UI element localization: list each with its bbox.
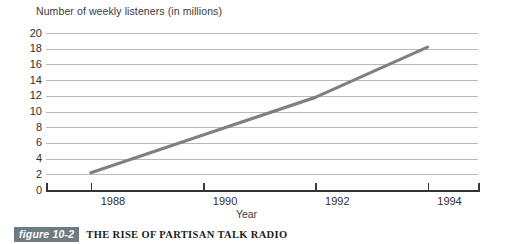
x-axis-tick-label: 1988 [101, 195, 125, 207]
x-axis-end-tick [478, 183, 480, 191]
y-axis-tick-label: 8 [16, 122, 42, 133]
figure-caption: figure 10-2 THE RISE OF PARTISAN TALK RA… [14, 227, 287, 242]
figure-number-badge: figure 10-2 [14, 227, 79, 242]
y-axis-tick-labels: 20181614121086420 [12, 33, 42, 190]
x-axis-title-text: Year [236, 208, 257, 220]
y-axis-tick-label: 20 [16, 28, 42, 39]
y-axis-tick-label: 0 [16, 185, 42, 196]
data-line-chart [46, 33, 478, 190]
x-axis-tick [315, 183, 317, 191]
y-axis-tick-label: 12 [16, 90, 42, 101]
y-axis-tick-label: 16 [16, 59, 42, 70]
figure-caption-title: THE RISE OF PARTISAN TALK RADIO [86, 229, 287, 240]
series-line-weekly-listeners [91, 47, 428, 173]
x-axis-tick-label: 1990 [213, 195, 237, 207]
y-axis-tick-label: 4 [16, 153, 42, 164]
x-axis-spine [46, 190, 480, 192]
y-axis-tick-label: 18 [16, 43, 42, 54]
y-axis-tick-label: 10 [16, 106, 42, 117]
x-axis-title: Year [0, 208, 515, 220]
figure-container: Number of weekly listeners (in millions)… [0, 0, 515, 244]
x-axis-tick-label: 1994 [437, 195, 461, 207]
x-axis-tick-label: 1992 [325, 195, 349, 207]
x-axis-tick [428, 183, 430, 191]
x-axis-tick [203, 183, 205, 191]
plot-area [46, 33, 478, 190]
y-axis-tick-label: 2 [16, 169, 42, 180]
y-axis-title: Number of weekly listeners (in millions) [36, 5, 222, 17]
y-axis-tick-label: 6 [16, 137, 42, 148]
y-axis-tick-label: 14 [16, 75, 42, 86]
x-axis-tick [91, 183, 93, 191]
